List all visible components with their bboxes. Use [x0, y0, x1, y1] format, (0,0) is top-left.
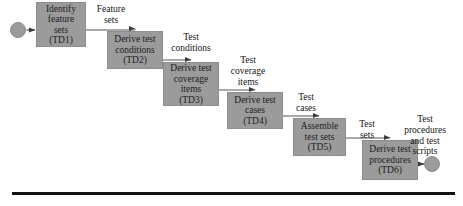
process-box-td5[interactable]: Assemble test sets (TD5)	[293, 118, 346, 156]
edge-label-test-cases: Test cases	[289, 92, 323, 114]
process-box-td3[interactable]: Derive test coverage items (TD3)	[163, 62, 219, 106]
edge-label-line: Test	[224, 55, 272, 66]
box-id-label: (TD5)	[308, 142, 332, 153]
connector-td1-to-td2	[86, 29, 135, 31]
box-line: coverage	[174, 74, 208, 85]
edge-label-test-coverage-items: Test coverage items	[224, 55, 272, 87]
process-box-td1[interactable]: Identify feature sets (TD1)	[36, 2, 86, 47]
box-id-label: (TD4)	[243, 116, 267, 127]
box-id-label: (TD6)	[378, 165, 402, 176]
box-line: Identify	[46, 4, 76, 15]
edge-label-line: Test	[164, 32, 218, 43]
box-line: Derive test	[234, 95, 275, 106]
connector-td2-to-td3	[163, 60, 191, 61]
process-box-td4[interactable]: Derive test cases (TD4)	[227, 92, 283, 129]
edge-label-feature-sets: Feature sets	[88, 4, 134, 26]
box-id-label: (TD3)	[179, 95, 203, 106]
box-line: conditions	[115, 45, 155, 56]
edge-label-line: coverage	[224, 66, 272, 77]
edge-label-line: cases	[289, 103, 323, 114]
edge-label-line: and test	[397, 136, 453, 147]
edge-label-line: Test	[397, 114, 453, 125]
edge-label-test-sets: Test sets	[351, 119, 383, 141]
box-line: cases	[245, 105, 265, 116]
edge-label-test-procedures-and-test-scripts: Test procedures and test scripts	[397, 114, 453, 157]
box-line: test sets	[305, 132, 335, 143]
box-line: feature	[48, 14, 74, 25]
edge-label-line: scripts	[397, 146, 453, 157]
edge-label-line: Test	[289, 92, 323, 103]
box-line: Assemble	[301, 121, 338, 132]
edge-label-line: Feature	[88, 4, 134, 15]
connector-td3-to-td4	[219, 90, 255, 91]
process-box-td2[interactable]: Derive test conditions (TD2)	[107, 31, 163, 69]
edge-label-line: sets	[88, 15, 134, 26]
box-line: items	[181, 84, 202, 95]
end-node	[425, 157, 440, 172]
box-line: sets	[54, 25, 68, 36]
box-id-label: (TD2)	[123, 55, 147, 66]
connector-td4-to-td5	[283, 116, 319, 117]
edge-label-line: items	[224, 77, 272, 88]
bottom-rule	[12, 192, 455, 195]
start-node	[11, 23, 26, 38]
box-id-label: (TD1)	[49, 35, 73, 46]
edge-label-line: Test	[351, 119, 383, 130]
diagram-canvas: Identify feature sets (TD1) Derive test …	[0, 0, 463, 206]
edge-label-line: conditions	[164, 43, 218, 54]
edge-label-line: sets	[351, 130, 383, 141]
edge-label-test-conditions: Test conditions	[164, 32, 218, 54]
edge-label-line: procedures	[397, 125, 453, 136]
box-line: Derive test	[114, 34, 155, 45]
box-line: Derive test	[170, 63, 211, 74]
